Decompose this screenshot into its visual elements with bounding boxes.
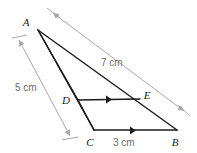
geometry-figure: A D E C B 7 cm 5 cm 3 cm <box>0 0 197 153</box>
vertex-label-d: D <box>61 94 70 106</box>
measure-label-ab: 7 cm <box>101 57 123 68</box>
vertex-label-c: C <box>86 136 94 148</box>
measure-label-ac: 5 cm <box>15 82 37 93</box>
figure-canvas: A D E C B 7 cm 5 cm 3 cm <box>0 0 197 153</box>
vertex-label-a: A <box>22 16 30 28</box>
vertex-label-b: B <box>172 136 179 148</box>
vertex-label-e: E <box>143 89 151 101</box>
measure-label-cb: 3 cm <box>113 137 135 148</box>
